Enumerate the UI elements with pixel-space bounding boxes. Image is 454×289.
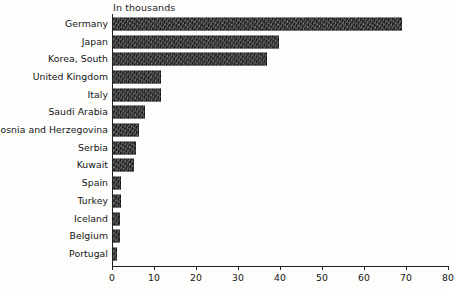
category-label: Belgium bbox=[70, 231, 108, 241]
bar bbox=[112, 70, 161, 83]
category-label: Iceland bbox=[74, 214, 108, 224]
x-axis-tick bbox=[364, 266, 365, 270]
category-label: Turkey bbox=[77, 196, 108, 206]
bar bbox=[112, 53, 267, 66]
bar-row: Spain bbox=[0, 174, 449, 192]
bar bbox=[112, 159, 134, 172]
x-axis-tick bbox=[448, 266, 449, 270]
bar-row: Korea, South bbox=[0, 50, 449, 68]
x-axis-tick bbox=[196, 266, 197, 270]
x-axis-tick-label: 80 bbox=[442, 272, 454, 283]
category-label: United Kingdom bbox=[33, 72, 108, 82]
x-axis-tick-label: 20 bbox=[190, 272, 202, 283]
category-label: Italy bbox=[88, 90, 108, 100]
category-label: Serbia bbox=[78, 143, 108, 153]
category-label: Spain bbox=[82, 178, 108, 188]
bar bbox=[112, 35, 279, 48]
bar-row: Germany bbox=[0, 15, 449, 33]
category-label: Kuwait bbox=[77, 160, 108, 170]
x-axis-tick-label: 30 bbox=[232, 272, 244, 283]
x-axis-tick-label: 0 bbox=[109, 272, 115, 283]
bar bbox=[112, 177, 121, 190]
category-label: Japan bbox=[82, 37, 108, 47]
x-axis-tick-label: 40 bbox=[274, 272, 286, 283]
unit-caption: In thousands bbox=[113, 2, 175, 14]
bar bbox=[112, 230, 120, 243]
bar-row: Italy bbox=[0, 86, 449, 104]
category-label: Germany bbox=[65, 19, 108, 29]
bar-row: Serbia bbox=[0, 139, 449, 157]
bar-row: Japan bbox=[0, 33, 449, 51]
bar bbox=[112, 194, 121, 207]
plot-area: GermanyJapanKorea, SouthUnited KingdomIt… bbox=[0, 15, 449, 263]
bar bbox=[112, 17, 402, 30]
category-label: Bosnia and Herzegovina bbox=[0, 125, 108, 135]
x-axis-tick-label: 50 bbox=[316, 272, 328, 283]
x-axis-tick bbox=[406, 266, 407, 270]
y-axis-line bbox=[112, 14, 113, 267]
bar bbox=[112, 88, 161, 101]
x-axis-tick-label: 70 bbox=[400, 272, 412, 283]
bar bbox=[112, 141, 136, 154]
bar-row: Saudi Arabia bbox=[0, 104, 449, 122]
bar-row: Iceland bbox=[0, 210, 449, 228]
bar-row: Kuwait bbox=[0, 157, 449, 175]
x-axis-tick bbox=[238, 266, 239, 270]
bar-row: Turkey bbox=[0, 192, 449, 210]
bar-row: United Kingdom bbox=[0, 68, 449, 86]
x-axis-tick bbox=[154, 266, 155, 270]
x-axis-tick bbox=[112, 266, 113, 270]
x-axis-tick-label: 10 bbox=[148, 272, 160, 283]
bar-row: Portugal bbox=[0, 245, 449, 263]
category-label: Korea, South bbox=[48, 54, 108, 64]
x-axis-tick-label: 60 bbox=[358, 272, 370, 283]
category-label: Portugal bbox=[69, 249, 108, 259]
x-axis-tick bbox=[280, 266, 281, 270]
category-label: Saudi Arabia bbox=[48, 107, 108, 117]
bar bbox=[112, 106, 145, 119]
bar-row: Belgium bbox=[0, 227, 449, 245]
x-axis-tick bbox=[322, 266, 323, 270]
bar bbox=[112, 124, 139, 137]
bar bbox=[112, 212, 120, 225]
bar-row: Bosnia and Herzegovina bbox=[0, 121, 449, 139]
